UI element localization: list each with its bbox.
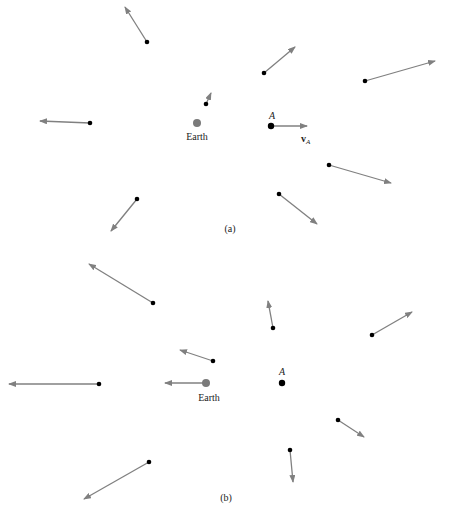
mass-point — [277, 192, 282, 197]
mass-point — [135, 197, 140, 202]
velocity-arrow — [290, 450, 293, 482]
mass-point — [327, 163, 332, 168]
mass-point — [88, 121, 93, 126]
mass-point — [147, 460, 152, 465]
point-a — [279, 380, 285, 386]
velocity-arrow — [111, 199, 137, 231]
mass-point — [370, 333, 375, 338]
velocity-arrow — [125, 7, 147, 42]
earth-marker — [202, 379, 210, 387]
velocity-arrow — [89, 264, 153, 303]
point-a-label: A — [268, 110, 276, 121]
velocity-arrow — [84, 462, 149, 499]
velocity-arrow — [329, 165, 391, 183]
velocity-arrow — [279, 194, 317, 224]
panel-caption: (b) — [220, 492, 232, 504]
velocity-arrow — [338, 420, 364, 437]
velocity-arrow — [268, 301, 273, 328]
mass-point — [145, 40, 150, 45]
mass-point — [204, 102, 209, 107]
velocity-arrow — [365, 61, 435, 81]
velocity-arrow — [40, 121, 90, 123]
mass-point — [97, 382, 102, 387]
mass-point — [151, 301, 156, 306]
mass-point — [271, 326, 276, 331]
vector-field-diagram: EarthAvA(a) EarthA(b) — [0, 0, 451, 522]
earth-label: Earth — [186, 131, 208, 142]
velocity-arrow — [264, 47, 295, 73]
earth-marker — [193, 119, 201, 127]
mass-point — [363, 79, 368, 84]
mass-point — [336, 418, 341, 423]
mass-point — [288, 448, 293, 453]
velocity-a-label: vA — [301, 133, 311, 146]
mass-point — [262, 71, 267, 76]
mass-point — [211, 359, 216, 364]
earth-label: Earth — [198, 392, 220, 403]
velocity-arrow — [372, 312, 412, 335]
panel-a: EarthAvA(a) — [40, 7, 435, 235]
velocity-arrow — [180, 350, 213, 361]
panel-b: EarthA(b) — [9, 264, 412, 504]
point-a — [268, 123, 274, 129]
panel-caption: (a) — [224, 223, 235, 235]
point-a-label: A — [278, 366, 286, 377]
